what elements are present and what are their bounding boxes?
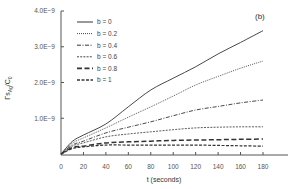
y-tick-label: 2.0E−9 xyxy=(34,79,55,86)
x-tick-label: 0 xyxy=(59,163,63,170)
y-tick-label: 3.0E−9 xyxy=(34,43,55,50)
chart-background xyxy=(0,0,304,189)
legend-label: b = 1 xyxy=(97,76,112,83)
panel-label: (b) xyxy=(255,12,265,21)
legend-label: b = 0 xyxy=(97,18,112,25)
y-tick-label: 1.0E−9 xyxy=(34,115,55,122)
chart: 1.0E−92.0E−93.0E−94.0E−9 020406080100120… xyxy=(0,0,304,189)
x-tick-label: 120 xyxy=(190,163,201,170)
x-tick-label: 180 xyxy=(258,163,269,170)
x-tick-label: 140 xyxy=(213,163,224,170)
x-tick-label: 20 xyxy=(80,163,88,170)
x-tick-label: 60 xyxy=(125,163,133,170)
legend-label: b = 0.6 xyxy=(97,53,117,60)
x-tick-label: 100 xyxy=(168,163,179,170)
legend-label: b = 0.8 xyxy=(97,65,117,72)
x-axis-label: t (seconds) xyxy=(147,176,182,184)
legend-label: b = 0.4 xyxy=(97,42,117,49)
y-tick-label: 4.0E−9 xyxy=(34,7,55,14)
legend-label: b = 0.2 xyxy=(97,30,117,37)
x-tick-label: 160 xyxy=(235,163,246,170)
x-tick-label: 80 xyxy=(147,163,155,170)
x-tick-label: 40 xyxy=(102,163,110,170)
